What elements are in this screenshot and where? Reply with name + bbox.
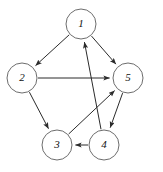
node-2[interactable]: 2 bbox=[7, 63, 37, 93]
node-label-2: 2 bbox=[19, 71, 25, 83]
edge-2-to-3 bbox=[29, 92, 48, 129]
edge-1-to-2 bbox=[36, 35, 70, 66]
node-1[interactable]: 1 bbox=[66, 9, 96, 39]
graph-canvas: 12345 bbox=[0, 0, 163, 172]
nodes-layer: 12345 bbox=[7, 9, 143, 160]
node-label-4: 4 bbox=[101, 138, 107, 150]
edges-layer bbox=[29, 35, 122, 145]
node-3[interactable]: 3 bbox=[42, 130, 72, 160]
node-5[interactable]: 5 bbox=[113, 63, 143, 93]
edge-1-to-5 bbox=[92, 36, 116, 64]
node-4[interactable]: 4 bbox=[89, 130, 119, 160]
node-label-5: 5 bbox=[125, 71, 131, 83]
edge-3-to-5 bbox=[69, 91, 115, 134]
node-label-3: 3 bbox=[53, 138, 60, 150]
node-label-1: 1 bbox=[78, 17, 84, 29]
edge-5-to-4 bbox=[110, 93, 122, 128]
graph-figure: 12345 bbox=[0, 0, 163, 172]
